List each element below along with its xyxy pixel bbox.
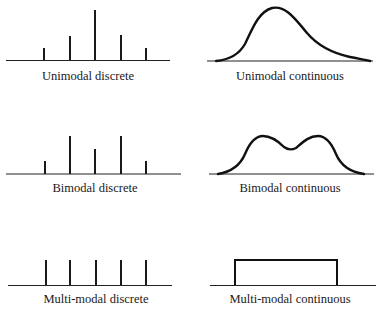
bimodal-discrete-plot: Bimodal discrete [6, 136, 181, 195]
multimodal-continuous-plot: Multi-modal continuous [210, 260, 376, 306]
multimodal-discrete-plot: Multi-modal discrete [8, 260, 172, 306]
panel-label: Multi-modal discrete [43, 292, 149, 306]
panel-label: Bimodal discrete [52, 181, 137, 195]
panel-label: Unimodal continuous [236, 69, 344, 83]
unimodal-continuous-plot: Unimodal continuous [207, 8, 373, 83]
density-curve [216, 8, 370, 61]
bimodal-continuous-plot: Bimodal continuous [209, 136, 374, 195]
unimodal-discrete-plot: Unimodal discrete [6, 10, 170, 83]
panel-label: Bimodal continuous [239, 181, 340, 195]
uniform-rectangle [235, 260, 337, 285]
density-curve [218, 136, 364, 174]
distribution-shapes-diagram: Unimodal discrete Unimodal continuous Bi… [0, 0, 380, 316]
panel-label: Multi-modal continuous [229, 292, 350, 306]
panel-label: Unimodal discrete [42, 69, 134, 83]
